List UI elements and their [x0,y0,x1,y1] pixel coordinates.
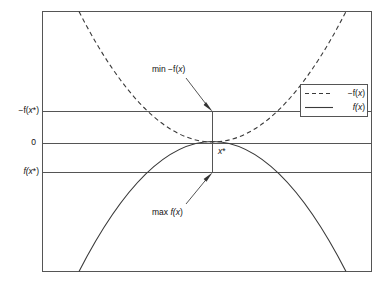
min-annotation-prefix: min [152,64,168,74]
y-tick-label-zero: 0 [0,137,36,147]
y-tick-neg-f-xstar-math: −f( [18,105,28,115]
figure-container: −f(x*) 0 f(x*) min −f(x) max f(x) x* −f(… [0,0,391,281]
legend-neg-f-math: −f( [348,88,358,98]
legend-entry-neg-f: −f(x) [335,88,365,98]
xstar-star: * [222,146,225,156]
legend-f-suffix: ) [362,102,365,112]
plot-canvas [0,0,391,281]
min-annotation-suffix: ) [182,64,185,74]
y-tick-zero-text: 0 [31,137,36,147]
y-tick-label-neg-f-xstar: −f(x*) [0,105,39,115]
y-tick-f-xstar-suffix: ) [36,166,39,176]
min-annotation-math: −f( [168,64,178,74]
legend-neg-f-suffix: ) [362,88,365,98]
max-annotation-label: max f(x) [152,207,183,217]
y-tick-neg-f-xstar-suffix: ) [36,105,39,115]
y-tick-label-f-xstar: f(x*) [0,166,39,176]
min-annotation-label: min −f(x) [152,64,185,74]
max-annotation-suffix: ) [180,207,183,217]
max-annotation-prefix: max [152,207,170,217]
legend-entry-f: f(x) [335,102,365,112]
xstar-label: x* [218,146,226,156]
